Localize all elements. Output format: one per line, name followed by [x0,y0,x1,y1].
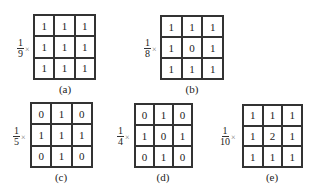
matrix-cell: 1 [51,103,71,124]
matrix-cell: 1 [263,105,283,126]
times-sign: × [152,45,157,54]
matrix-cell: 1 [54,36,74,57]
matrix-cell: 1 [161,16,182,37]
denominator: 8 [145,49,150,59]
times-sign: × [231,133,236,142]
matrix-cell: 1 [75,58,95,79]
matrix-cell: 1 [31,124,51,145]
times-sign: × [21,133,26,142]
matrix-cell: 1 [54,58,74,79]
times-sign: × [25,45,30,54]
matrix-cell: 1 [243,105,263,126]
matrix-cell: 1 [202,16,223,37]
matrix-cell: 0 [31,103,51,124]
matrix-cell: 1 [182,16,203,37]
scale-factor: 18 × [144,38,157,59]
panel-label: (b) [182,83,202,95]
matrix-cell: 0 [173,104,192,125]
scale-factor: 14 × [117,126,130,147]
matrix-cell: 1 [154,104,173,125]
matrix-cell: 0 [135,146,154,167]
denominator: 5 [14,137,19,147]
matrix-cell: 0 [182,37,203,58]
scale-factor: 110 × [220,126,236,147]
matrix-cell: 1 [282,126,302,147]
matrix-cell: 0 [72,103,92,124]
matrix-cell: 2 [263,126,283,147]
matrix-cell: 1 [182,58,203,79]
matrix-cell: 1 [202,37,223,58]
matrix-cell: 0 [154,125,173,146]
matrix-cell: 1 [54,15,74,36]
matrix-cell: 1 [161,37,182,58]
panel-label: (c) [51,171,71,183]
matrix-cell: 1 [34,15,54,36]
kernel-matrix: 1 1 1 1 1 1 1 1 1 [33,14,96,80]
kernel-matrix: 0 1 0 1 0 1 0 1 0 [134,103,193,168]
kernel-matrix: 1 1 1 1 2 1 1 1 1 [242,104,303,168]
matrix-cell: 0 [135,104,154,125]
times-sign: × [125,133,130,142]
kernel-matrix: 0 1 0 1 1 1 0 1 0 [30,102,93,168]
matrix-cell: 1 [282,146,302,167]
matrix-cell: 0 [173,146,192,167]
matrix-cell: 1 [154,146,173,167]
matrix-cell: 1 [282,105,302,126]
scale-factor: 19 × [17,38,30,59]
denominator: 9 [18,49,23,59]
matrix-cell: 1 [75,36,95,57]
matrix-cell: 1 [72,124,92,145]
panel-label: (e) [262,171,282,183]
kernel-matrix: 1 1 1 1 0 1 1 1 1 [160,15,224,80]
panel-label: (a) [55,83,75,95]
matrix-cell: 1 [34,36,54,57]
matrix-cell: 1 [51,124,71,145]
matrix-cell: 1 [34,58,54,79]
matrix-cell: 0 [72,146,92,167]
matrix-cell: 1 [161,58,182,79]
matrix-cell: 0 [31,146,51,167]
matrix-cell: 1 [135,125,154,146]
denominator: 10 [220,137,230,147]
matrix-cell: 1 [243,126,263,147]
matrix-cell: 1 [173,125,192,146]
scale-factor: 15 × [13,126,26,147]
matrix-cell: 1 [243,146,263,167]
denominator: 4 [118,137,123,147]
matrix-cell: 1 [263,146,283,167]
matrix-cell: 1 [51,146,71,167]
panel-label: (d) [153,171,173,183]
matrix-cell: 1 [75,15,95,36]
matrix-cell: 1 [202,58,223,79]
